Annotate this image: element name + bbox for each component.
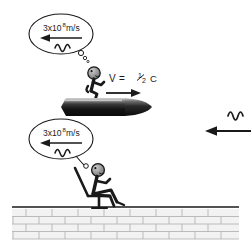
rider-back [87,86,89,92]
rocket-observer-bubble: 3x10 8 m/s [29,14,93,63]
brick-wall-ground [12,207,239,239]
velocity-label: V = 1 2 C [109,72,157,84]
bubble-speed-text: 3x10 [43,128,62,138]
bubble-speed-units: m/s [66,128,80,138]
light-ray-wave-icon [228,112,243,120]
rocket-highlight [64,100,122,102]
observer-arm [97,179,110,183]
ground-observer-bubble: 3x10 8 m/s [29,119,93,168]
bubble-tail-line [76,156,84,165]
bubble-speed-text: 3x10 [43,23,62,33]
bubble-tail-dot-medium [83,56,86,59]
observer-foot [117,202,124,205]
observer-torso [93,177,97,195]
chair-backrest [75,168,88,196]
velocity-equals-sign: = [119,73,125,84]
light-ray-arrowhead-icon [205,126,217,136]
incoming-light-ray [205,112,251,136]
physics-diagram-canvas: 3x10 8 m/s V [0,0,251,243]
observer-eye-icon [94,167,96,169]
stick-figure-in-chair [92,164,124,206]
speech-bubble-outline [29,119,93,159]
bubble-tail-dot-large [84,164,89,169]
bubble-tail-dot-small [87,60,89,62]
diagram-svg: 3x10 8 m/s V [0,0,251,243]
velocity-symbol: V [109,73,116,84]
rider-eye-icon [91,70,93,72]
rider-arm [93,82,104,85]
velocity-fraction-denominator: 2 [142,77,146,84]
speech-bubble-outline [29,14,93,54]
rocket-exhaust-flame-icon [41,101,62,114]
bubble-tail-dot-large [78,50,83,55]
velocity-speed-symbol: C [150,73,157,84]
stick-figure-on-rocket [87,67,105,100]
bubble-speed-units: m/s [66,23,80,33]
rocket [41,98,152,116]
rocket-nose-cone [125,98,152,116]
rocket-velocity-arrow-icon [106,89,141,97]
rider-head-icon [88,67,100,79]
